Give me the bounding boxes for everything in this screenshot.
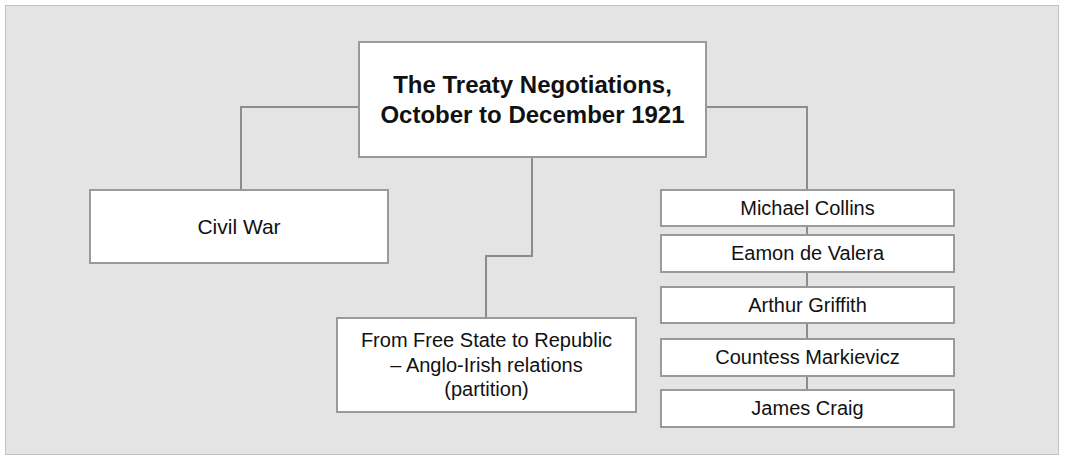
connector-title-to-theme-vertical-upper: [531, 158, 533, 256]
node-person-arthur-griffith[interactable]: Arthur Griffith: [660, 286, 955, 324]
node-civil-war[interactable]: Civil War: [89, 189, 389, 264]
connector-title-to-theme-vertical-lower: [485, 255, 487, 318]
person-label-2: Eamon de Valera: [731, 241, 884, 265]
diagram-panel: The Treaty Negotiations, October to Dece…: [5, 5, 1059, 455]
node-title-line-2: October to December 1921: [380, 100, 684, 129]
node-title-line-1: The Treaty Negotiations,: [393, 70, 672, 99]
node-theme-line-1: From Free State to Republic: [361, 328, 612, 352]
connector-title-to-civil-war-horizontal: [240, 106, 359, 108]
diagram-canvas: The Treaty Negotiations, October to Dece…: [0, 0, 1066, 470]
connector-title-to-people-vertical: [806, 106, 808, 190]
connector-title-to-theme-horizontal-jog: [485, 255, 533, 257]
person-label-3: Arthur Griffith: [748, 293, 867, 317]
node-person-eamon-de-valera[interactable]: Eamon de Valera: [660, 234, 955, 273]
connector-title-to-civil-war-vertical: [240, 106, 242, 190]
connector-title-to-people-horizontal: [707, 106, 808, 108]
node-theme-line-3: (partition): [444, 377, 528, 401]
person-label-1: Michael Collins: [740, 196, 875, 220]
node-theme-line-2: – Anglo-Irish relations: [390, 353, 582, 377]
node-treaty-negotiations[interactable]: The Treaty Negotiations, October to Dece…: [358, 41, 707, 158]
connector-people-link-4: [806, 376, 808, 389]
node-person-countess-markievicz[interactable]: Countess Markievicz: [660, 338, 955, 377]
node-person-james-craig[interactable]: James Craig: [660, 389, 955, 428]
person-label-5: James Craig: [751, 396, 863, 420]
node-person-michael-collins[interactable]: Michael Collins: [660, 189, 955, 227]
node-free-state-to-republic[interactable]: From Free State to Republic – Anglo-Iris…: [336, 317, 637, 413]
node-civil-war-label: Civil War: [197, 214, 280, 240]
connector-people-link-2: [806, 272, 808, 286]
connector-people-link-3: [806, 323, 808, 338]
person-label-4: Countess Markievicz: [715, 345, 900, 369]
